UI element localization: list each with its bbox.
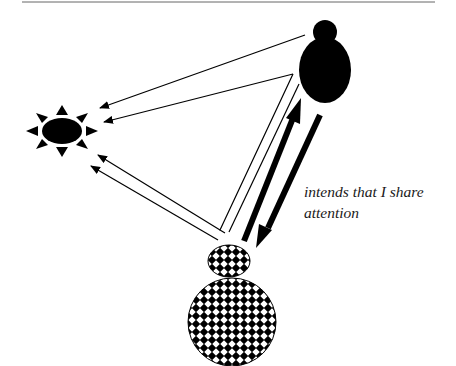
infant-body: [188, 278, 276, 366]
adult-infant-double-line-inner: [229, 84, 299, 232]
infant-gaze-arrow-upper: [98, 155, 220, 230]
infant-head: [208, 245, 250, 277]
adult-body: [299, 37, 351, 103]
infant-gaze-arrow-lower: [91, 166, 218, 240]
adult-figure: [299, 20, 351, 103]
adult-gaze-arrow-lower: [104, 74, 293, 122]
intention-label: intends that I share attention: [304, 181, 424, 223]
intention-label-line1: intends that I share: [304, 181, 424, 202]
intention-label-line2: attention: [304, 202, 424, 223]
sun-object-icon: [26, 105, 98, 157]
infant-figure: [188, 245, 276, 366]
